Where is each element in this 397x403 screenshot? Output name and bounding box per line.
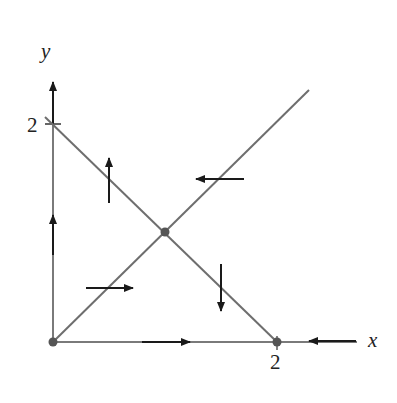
- equilibrium-center: [161, 228, 170, 237]
- direction-arrows: [53, 158, 356, 342]
- x-axis-label: x: [367, 328, 378, 352]
- equilibrium-origin: [49, 338, 58, 347]
- phase-plane-diagram: y x 2 2: [0, 0, 397, 403]
- y-axis-label: y: [39, 39, 51, 63]
- nullcline-diagonal: [53, 90, 309, 342]
- x-axis: [53, 336, 357, 350]
- equilibrium-points: [49, 228, 282, 347]
- nullcline-antidiagonal: [45, 117, 277, 342]
- equilibrium-x-intercept: [273, 338, 282, 347]
- y-axis: [45, 82, 61, 342]
- x-tick-label: 2: [270, 350, 281, 374]
- y-tick-label: 2: [27, 113, 38, 137]
